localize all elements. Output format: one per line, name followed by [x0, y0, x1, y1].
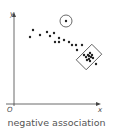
data-point	[88, 55, 90, 57]
data-point	[49, 35, 51, 37]
data-point	[53, 32, 55, 34]
x-axis-label: x	[97, 106, 103, 114]
data-point	[63, 39, 65, 41]
y-axis-label: y	[9, 10, 15, 18]
data-point	[75, 44, 77, 46]
data-point	[92, 57, 94, 59]
data-point	[81, 44, 83, 46]
data-point	[46, 31, 48, 33]
scatter-diagram: y O x	[0, 0, 113, 132]
data-point	[39, 34, 41, 36]
data-point	[95, 63, 97, 65]
data-point	[58, 41, 60, 43]
data-point	[76, 49, 78, 51]
outlier-point	[65, 20, 67, 22]
data-point	[89, 60, 91, 62]
cluster	[76, 44, 101, 69]
data-point	[68, 41, 70, 43]
data-point	[85, 56, 87, 58]
data-points	[29, 29, 85, 56]
cluster-points	[85, 52, 97, 65]
outlier	[60, 15, 72, 27]
origin-label: O	[7, 106, 13, 114]
caption: negative association	[0, 117, 113, 128]
data-point	[32, 29, 34, 31]
data-point	[83, 54, 85, 56]
data-point	[71, 44, 73, 46]
data-point	[86, 59, 88, 61]
data-point	[29, 36, 31, 38]
data-point	[54, 41, 56, 43]
data-point	[58, 37, 60, 39]
data-point	[91, 54, 93, 56]
data-point	[89, 52, 91, 54]
